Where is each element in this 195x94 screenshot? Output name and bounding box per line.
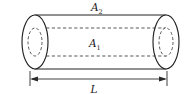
- inner-area-label-subscript: 1: [97, 44, 101, 52]
- cylinder-body-outline: [35, 15, 166, 69]
- left-bore-ellipse: [28, 28, 42, 56]
- length-dimension: [30, 71, 167, 86]
- length-label: L: [90, 83, 98, 94]
- inner-area-label: A 1: [88, 37, 101, 52]
- right-bore-ellipse: [159, 28, 173, 56]
- right-arrow-head-icon: [159, 76, 167, 81]
- bore-hidden-edges: [35, 28, 166, 56]
- cylinder-diagram-canvas: A 2 A 1 L: [0, 0, 195, 94]
- left-arrow-head-icon: [30, 76, 38, 81]
- outer-area-label-subscript: 2: [99, 8, 103, 16]
- cylinder-figure: A 2 A 1 L: [0, 0, 195, 94]
- outer-area-label: A 2: [90, 1, 103, 16]
